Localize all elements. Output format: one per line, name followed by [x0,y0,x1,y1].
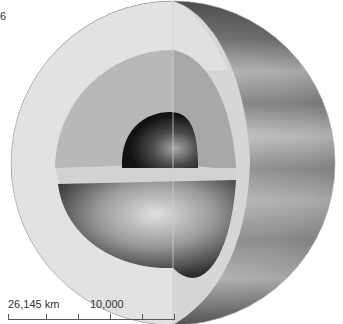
scale-tick [46,314,47,320]
planet-cutaway-diagram [0,0,343,324]
scale-tick [142,314,143,320]
scale-tick [110,314,111,320]
scale-line [8,319,174,320]
scale-label-radius: 26,145 km [8,298,59,310]
scale-tick [174,314,175,320]
scale-tick [78,314,79,320]
scale-label-10000: 10,000 [90,298,124,310]
scale-bar: 26,145 km 10,000 [0,298,180,324]
scale-tick [8,314,9,320]
